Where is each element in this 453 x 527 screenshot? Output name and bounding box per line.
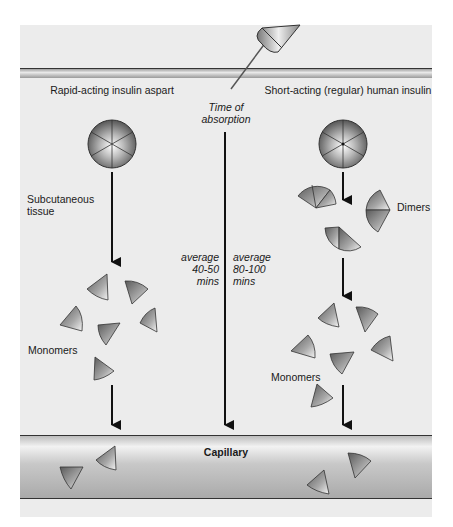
right-duration-line1: average	[233, 251, 271, 263]
subcutaneous-label-line1: Subcutaneous	[27, 193, 94, 205]
monomer-wedge-icon	[60, 274, 157, 380]
left-duration-line1: average	[170, 251, 219, 263]
capillary-label: Capillary	[186, 446, 266, 458]
left-duration-line3: mins	[170, 275, 219, 287]
right-duration-line2: 80-100	[233, 263, 266, 275]
subcutaneous-label-line2: tissue	[27, 205, 54, 217]
title-rapid-acting: Rapid-acting insulin aspart	[42, 84, 182, 96]
syringe-needle-icon	[231, 25, 300, 89]
time-of-absorption-line1: Time of	[190, 101, 262, 113]
hexamer-sphere-icon	[88, 120, 136, 168]
time-of-absorption-line2: absorption	[190, 113, 262, 125]
right-duration-line3: mins	[233, 275, 255, 287]
dimer-wedge-icon	[298, 185, 336, 208]
dimer-wedge-icon	[325, 227, 361, 251]
hexamer-sphere-icon	[319, 120, 367, 168]
title-short-acting: Short-acting (regular) human insulin	[258, 84, 438, 96]
left-duration-line2: 40-50	[170, 263, 219, 275]
dimer-wedge-icon	[366, 190, 390, 232]
monomers-label-left: Monomers	[28, 344, 78, 356]
dimers-label: Dimers	[397, 201, 430, 213]
monomers-label-right: Monomers	[271, 371, 321, 383]
skin-band	[20, 68, 432, 78]
